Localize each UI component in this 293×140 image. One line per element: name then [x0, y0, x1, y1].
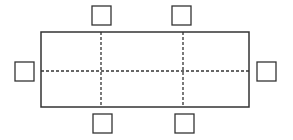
chair-bottom-left — [93, 114, 112, 133]
chair-right — [257, 62, 276, 81]
chair-top-right — [172, 6, 191, 25]
table-seating-diagram — [0, 0, 293, 140]
chair-top-left — [92, 6, 111, 25]
chair-left — [15, 62, 34, 81]
chair-bottom-right — [175, 114, 194, 133]
table-rectangle — [41, 32, 249, 107]
